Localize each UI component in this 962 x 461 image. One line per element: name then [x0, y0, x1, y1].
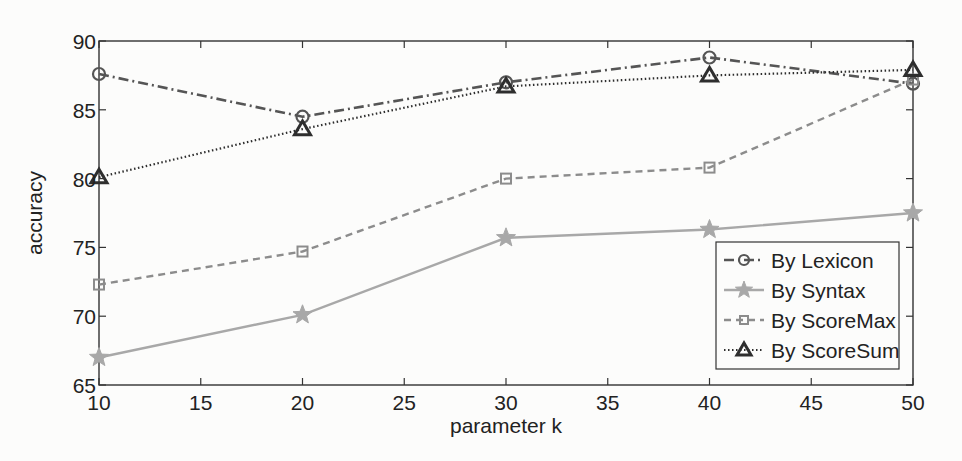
x-tick-label: 15 — [189, 391, 212, 414]
y-tick-label: 70 — [73, 305, 96, 328]
y-tick-label: 65 — [73, 374, 96, 397]
star-marker-icon — [293, 305, 312, 323]
y-tick-label: 85 — [73, 99, 96, 122]
legend-label: By ScoreMax — [771, 309, 896, 332]
triangle-marker-icon — [702, 67, 718, 81]
legend-label: By ScoreSum — [771, 339, 899, 362]
star-marker-icon — [700, 220, 719, 238]
y-tick-label: 80 — [73, 168, 96, 191]
x-axis-label: parameter k — [450, 414, 563, 437]
triangle-marker-icon — [295, 121, 311, 135]
line-chart: 101520253035404550657075808590 parameter… — [0, 0, 962, 461]
chart-canvas: 101520253035404550657075808590 parameter… — [0, 0, 962, 461]
x-tick-label: 35 — [596, 391, 619, 414]
legend-label: By Lexicon — [771, 249, 874, 272]
legend-label: By Syntax — [771, 279, 866, 302]
star-marker-icon — [497, 228, 516, 246]
x-tick-label: 45 — [800, 391, 823, 414]
y-tick-label: 90 — [73, 30, 96, 53]
legend: By LexiconBy SyntaxBy ScoreMaxBy ScoreSu… — [716, 242, 899, 369]
y-tick-label: 75 — [73, 236, 96, 259]
series-by-scoresum — [91, 62, 921, 183]
x-tick-label: 40 — [698, 391, 721, 414]
x-tick-label: 25 — [393, 391, 416, 414]
x-tick-label: 30 — [494, 391, 517, 414]
x-tick-label: 20 — [291, 391, 314, 414]
y-axis-label: accuracy — [23, 170, 46, 255]
series-line — [99, 70, 913, 177]
x-tick-label: 50 — [901, 391, 924, 414]
